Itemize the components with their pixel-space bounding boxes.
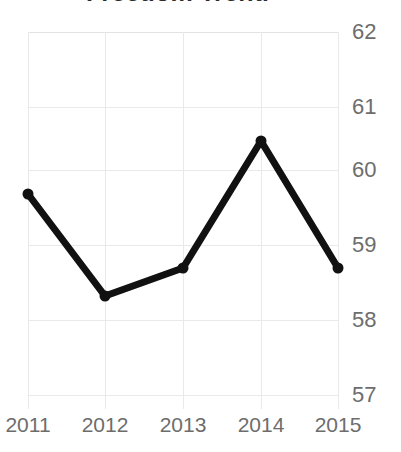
y-axis-tick-label: 61 xyxy=(352,96,398,118)
y-axis-tick-label: 58 xyxy=(352,309,398,331)
y-axis-tick-label: 59 xyxy=(352,234,398,256)
freedom-trend-chart: Freedom Trend 62616059585720112012201320… xyxy=(0,0,401,452)
x-axis-tick-label: 2014 xyxy=(221,413,301,437)
x-axis-tick-label: 2015 xyxy=(298,413,378,437)
grid-line-vertical xyxy=(261,32,262,409)
grid-line-vertical xyxy=(183,32,184,409)
x-axis-tick-label: 2011 xyxy=(0,413,68,437)
chart-title: Freedom Trend xyxy=(0,0,355,6)
y-axis-tick-label: 62 xyxy=(352,21,398,43)
x-axis-tick-label: 2013 xyxy=(143,413,223,437)
grid-line-vertical xyxy=(105,32,106,409)
plot-area xyxy=(28,32,338,395)
x-axis-tick-label: 2012 xyxy=(65,413,145,437)
grid-line-vertical xyxy=(28,32,29,409)
grid-line-vertical xyxy=(338,32,339,409)
y-axis-tick-label: 57 xyxy=(352,384,398,406)
y-axis-tick-label: 60 xyxy=(352,159,398,181)
